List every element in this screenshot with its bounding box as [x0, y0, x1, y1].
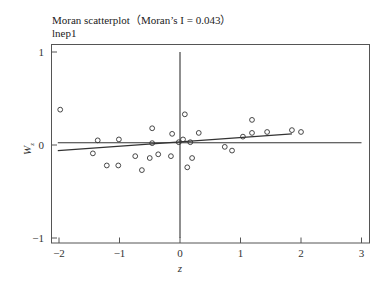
data-point-marker	[156, 152, 161, 157]
y-tick-label: 0	[39, 139, 45, 151]
x-tick-label: 2	[298, 247, 304, 259]
data-point-marker	[182, 112, 187, 117]
x-tick-label: −2	[53, 247, 65, 259]
svg-text:Wz: Wz	[21, 143, 36, 155]
y-tick-label: 1	[39, 46, 45, 58]
data-points	[58, 107, 304, 172]
data-point-marker	[265, 130, 270, 135]
data-point-marker	[139, 168, 144, 173]
data-point-marker	[95, 138, 100, 143]
data-point-marker	[299, 130, 304, 135]
data-point-marker	[196, 131, 201, 136]
x-tick-label: 3	[359, 247, 365, 259]
data-point-marker	[290, 128, 295, 133]
x-tick-label: 1	[238, 247, 244, 259]
plot-frame	[52, 45, 370, 244]
y-tick-label: −1	[32, 232, 44, 244]
x-axis-ticks: −2−10123	[53, 238, 365, 260]
data-point-marker	[133, 154, 138, 159]
data-point-marker	[90, 151, 95, 156]
data-point-marker	[58, 107, 63, 112]
reference-lines	[58, 52, 362, 238]
data-point-marker	[150, 126, 155, 131]
data-point-marker	[250, 117, 255, 122]
data-point-marker	[147, 156, 152, 161]
data-point-marker	[190, 156, 195, 161]
data-point-marker	[250, 131, 255, 136]
data-point-marker	[222, 144, 227, 149]
data-point-marker	[170, 131, 175, 136]
data-point-marker	[116, 137, 121, 142]
x-tick-label: 0	[177, 247, 183, 259]
y-axis-label: Wz	[21, 143, 36, 155]
data-point-marker	[241, 134, 246, 139]
data-point-marker	[169, 154, 174, 159]
scatter-plot: −101 −2−10123 z Wz	[0, 0, 390, 288]
data-point-marker	[116, 163, 121, 168]
data-point-marker	[185, 165, 190, 170]
data-point-marker	[104, 163, 109, 168]
y-axis-label-sub: z	[28, 143, 36, 147]
x-tick-label: −1	[114, 247, 126, 259]
data-point-marker	[230, 148, 235, 153]
x-axis-label: z	[177, 262, 183, 274]
